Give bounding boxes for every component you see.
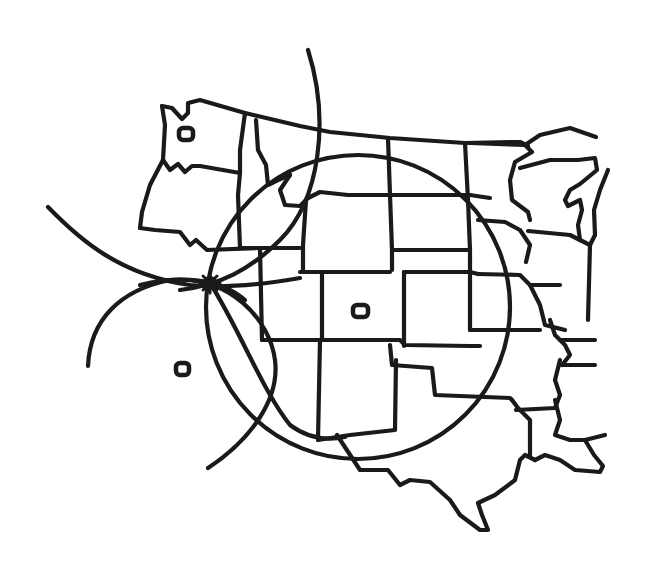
starburst-intersection-icon [200, 273, 220, 293]
range-arc-diagonal [210, 283, 345, 439]
range-circles [48, 50, 510, 468]
rounded-square-marker-icon[interactable] [179, 128, 193, 140]
map-canvas [0, 0, 646, 575]
rounded-square-marker-icon[interactable] [176, 363, 189, 375]
rounded-square-marker-icon[interactable] [353, 305, 368, 317]
range-circle-northwest-arc [180, 50, 319, 290]
trilateration-map [0, 0, 646, 575]
